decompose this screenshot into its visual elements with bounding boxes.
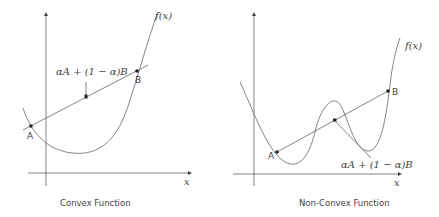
point-b-label: B [392, 87, 398, 97]
function-label: f(x) [154, 10, 172, 21]
combination-point [333, 119, 337, 122]
point-b [135, 69, 139, 73]
chord-line [277, 91, 388, 152]
non-convex-curve [240, 38, 400, 164]
point-a-label: A [268, 151, 275, 161]
x-axis-label: x [394, 177, 400, 188]
combination-label: αA + (1 − α)B [341, 159, 413, 170]
panel-caption: Convex Function [60, 198, 131, 208]
point-a [275, 150, 279, 154]
convexity-diagram: f(x) αA + (1 − α)B A B x Convex Function… [0, 0, 439, 217]
combination-label: αA + (1 − α)B [56, 66, 128, 77]
combination-point [85, 95, 88, 99]
point-b-label: B [135, 75, 141, 85]
point-b [386, 89, 390, 93]
panel-caption: Non-Convex Function [299, 198, 390, 208]
convex-panel: f(x) αA + (1 − α)B A B x Convex Function [23, 10, 190, 208]
point-a [29, 124, 33, 128]
combination-pointer [335, 121, 371, 158]
point-a-label: A [27, 131, 34, 141]
non-convex-panel: f(x) αA + (1 − α)B A B x Non-Convex Func… [233, 14, 422, 208]
x-axis-label: x [184, 176, 190, 187]
function-label: f(x) [404, 40, 422, 51]
